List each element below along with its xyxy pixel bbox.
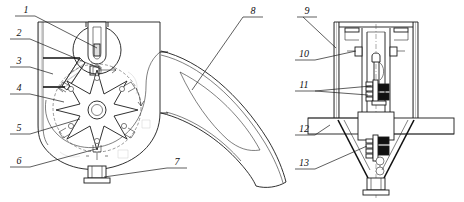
top-flange-right <box>394 28 408 32</box>
left-volute-assembly <box>38 22 168 183</box>
rotor-pin-2 <box>119 86 124 91</box>
top-flange-left <box>345 28 359 32</box>
callout-8-leader <box>192 17 243 90</box>
bottom-flange-plate <box>84 178 110 183</box>
callout-2-label: 2 <box>17 27 22 38</box>
callout-1[interactable]: 1 <box>15 4 97 48</box>
support-plate-group <box>308 112 454 140</box>
bottom-flange-outlet <box>84 166 110 183</box>
right-separator-assembly <box>308 22 454 198</box>
callout-6-label: 6 <box>17 155 22 166</box>
callout-9-label: 9 <box>305 5 310 16</box>
lb-eye-1 <box>376 157 384 165</box>
callout-10-label: 10 <box>299 48 309 59</box>
shaft-upper-head <box>372 53 380 62</box>
bottom-nozzle <box>88 166 106 178</box>
callout-12-label: 12 <box>299 123 309 134</box>
callout-9-leader <box>303 17 336 48</box>
duct-inner-wall2 <box>166 112 241 161</box>
lb-ring-4 <box>366 154 373 158</box>
shaft-link-arm <box>379 62 384 80</box>
callout-6[interactable]: 6 <box>10 149 96 167</box>
callout-13-leader <box>315 146 367 169</box>
ub-ring-2 <box>366 87 373 91</box>
ub-body <box>373 80 378 104</box>
callout-6-leader <box>30 149 96 167</box>
callout-11-leader2 <box>315 86 371 91</box>
ub-ring-1 <box>366 82 373 86</box>
callout-8[interactable]: 8 <box>192 5 263 90</box>
bracket-lug-right <box>390 47 405 56</box>
callout-7-label: 7 <box>175 156 181 167</box>
callout-4-leader <box>30 94 64 102</box>
rotor-pin-1 <box>94 75 99 80</box>
ub-collar <box>372 101 386 105</box>
upper-bearing-stack <box>366 80 389 105</box>
callout-5-label: 5 <box>17 122 22 133</box>
lb-body <box>373 135 378 161</box>
ub-block-dark-1 <box>378 84 389 91</box>
top-inner-ceiling-l <box>345 32 359 40</box>
callout-4-label: 4 <box>17 82 22 93</box>
ub-block-dark-2 <box>378 93 389 100</box>
casing-inner-wall <box>43 22 48 145</box>
callout-11-leader <box>315 91 368 95</box>
callout-13-label: 13 <box>299 157 309 168</box>
callout-13[interactable]: 13 <box>295 146 367 169</box>
callout-11[interactable]: 11 <box>295 79 371 95</box>
callout-11-label: 11 <box>299 79 308 90</box>
lb-ring-1 <box>366 139 373 143</box>
ub-ring-3 <box>366 92 373 96</box>
casing-wall-hatch <box>38 22 43 130</box>
ub-ring-4 <box>366 97 373 101</box>
lb-block-dark-1 <box>378 137 389 144</box>
rotor-pin-5 <box>68 123 73 128</box>
inlet-nozzle-plug <box>94 44 100 56</box>
callout-9[interactable]: 9 <box>297 5 336 48</box>
callout-1-label: 1 <box>24 4 29 15</box>
callout-7-leader <box>104 168 167 177</box>
technical-drawing-svg: 1 2 3 4 5 6 <box>0 0 464 202</box>
hopper-discharge-flange <box>363 190 389 195</box>
lug-right-body <box>390 47 397 56</box>
hopper-discharge-neck <box>367 178 385 190</box>
rotor-pin-6 <box>68 86 73 91</box>
rotor-pin-3 <box>121 123 126 128</box>
lb-ring-2 <box>366 144 373 148</box>
shell-right-hatch <box>413 22 418 120</box>
lb-block-dark-2 <box>378 146 389 155</box>
figure-canvas: 1 2 3 4 5 6 <box>0 0 464 202</box>
curved-transition-duct <box>161 51 286 187</box>
callout-layer: 1 2 3 4 5 6 <box>10 4 371 177</box>
duct-inner-wall <box>161 113 256 186</box>
top-inner-ceiling-r <box>394 32 408 40</box>
rotor-pin-4 <box>94 138 99 143</box>
lb-ring-3 <box>366 149 373 153</box>
callout-4[interactable]: 4 <box>10 82 64 102</box>
duct-end-cap <box>256 182 286 187</box>
lug-left-body <box>355 47 362 56</box>
inlet-nozzle-body <box>88 22 106 64</box>
rotor-hub-bore <box>92 105 103 116</box>
callout-10[interactable]: 10 <box>295 48 356 60</box>
callout-8-label: 8 <box>251 5 256 16</box>
callout-7[interactable]: 7 <box>104 156 187 177</box>
feed-chute-group <box>43 58 85 92</box>
callout-3-label: 3 <box>16 55 22 66</box>
shell-left-hatch <box>334 22 339 120</box>
